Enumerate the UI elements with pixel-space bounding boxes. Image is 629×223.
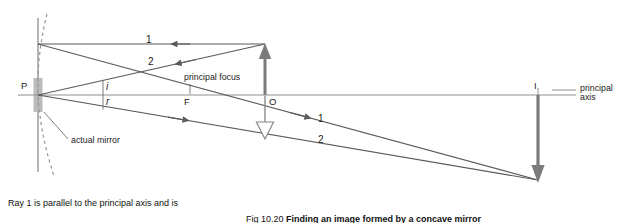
figure-caption-number: Fig 10.20 (246, 214, 284, 223)
ray2-incident-arrowhead (178, 60, 196, 64)
label-object-o: O (269, 96, 276, 108)
ray2-reflected-arrowhead (168, 117, 186, 120)
label-principal-focus: principal focus (184, 72, 240, 83)
ray2-incident-line (38, 44, 265, 95)
label-ray-2-reflected: 2 (318, 134, 324, 147)
label-ray-1-incident: 1 (146, 34, 152, 47)
actual-mirror-leader (44, 112, 68, 139)
label-ray-1-reflected: 1 (318, 113, 324, 126)
hollow-arrow-head (256, 122, 273, 139)
label-angle-i: i (106, 81, 108, 94)
label-focus-f: F (184, 96, 190, 108)
label-image-i: I (534, 80, 537, 92)
note-ray-2: Ray 2, obeying the reflection law, is sy… (8, 197, 223, 223)
label-ray-2-incident: 2 (148, 56, 154, 69)
ray1-reflected-arrowhead (290, 113, 308, 118)
label-pole-p: P (21, 80, 27, 92)
label-angle-r: r (106, 96, 109, 109)
label-principal-axis-line2: axis (580, 92, 596, 103)
figure-caption-title: Finding an image formed by a concave mir… (286, 214, 481, 223)
figure-canvas: P F O I i r 1 2 1 2 principal focus actu… (0, 0, 629, 223)
image-arrow-head (531, 165, 544, 183)
ray1-reflected-line (38, 44, 538, 180)
figure-caption: Fig 10.20 Finding an image formed by a c… (246, 214, 481, 223)
label-actual-mirror: actual mirror (71, 135, 120, 146)
